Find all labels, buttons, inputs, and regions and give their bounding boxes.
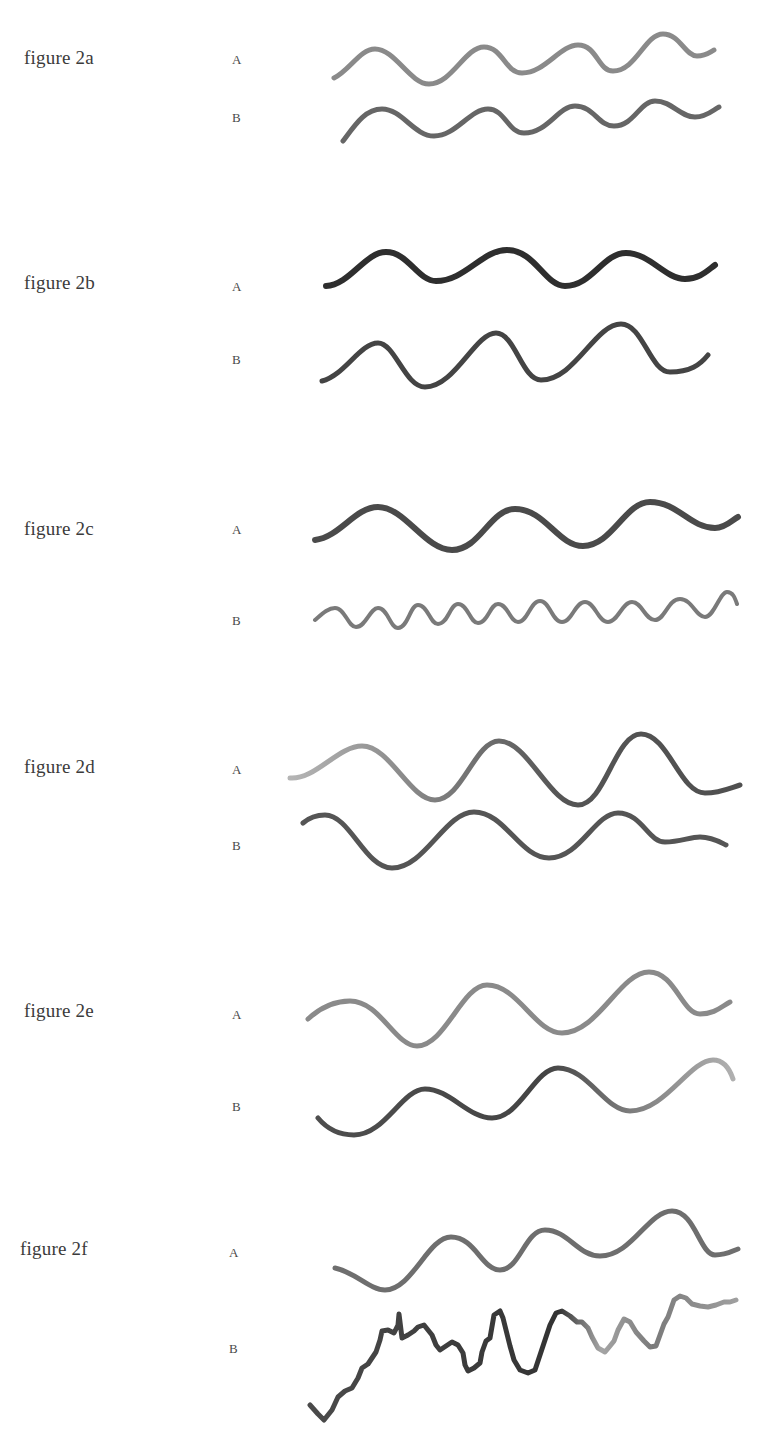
figure-2e-wave-b — [318, 1060, 733, 1135]
figure-2e-wave-a — [308, 972, 730, 1046]
figure-2a-wave-b — [343, 101, 719, 141]
figure-2a-wave-a — [334, 34, 714, 84]
figure-2b-wave-b — [322, 324, 708, 387]
figure-2b-wave-a — [326, 250, 715, 286]
waves-canvas — [0, 0, 766, 1451]
figure-2c-wave-a — [315, 502, 738, 550]
figure-2d-wave-b — [303, 812, 726, 868]
figure-2d-wave-a — [290, 734, 740, 805]
figure-2f-wave-a — [335, 1211, 738, 1290]
figure-2f-wave-b — [310, 1296, 736, 1420]
figure-2c-wave-b — [315, 592, 737, 628]
